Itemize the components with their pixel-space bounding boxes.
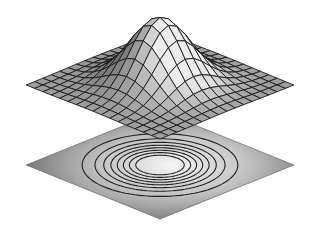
surface-mesh bbox=[26, 18, 294, 139]
surface-plot bbox=[0, 0, 315, 245]
